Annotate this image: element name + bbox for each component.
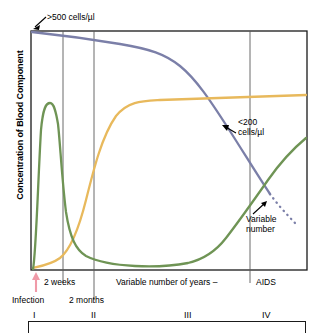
annotation-cd4-low-line2: cells/µl: [238, 127, 264, 137]
axis-label-aids: AIDS: [256, 277, 276, 287]
cd4-high-arrow-icon: [33, 17, 46, 30]
annotation-variable-line2: number: [246, 224, 277, 234]
axis-label-two-months: 2 months: [69, 295, 104, 305]
plot-frame: [31, 31, 307, 270]
infection-arrow-icon: [32, 272, 40, 292]
axis-label-variable-years: Variable number of years –: [116, 277, 217, 287]
axis-label-two-weeks: 2 weeks: [44, 277, 75, 287]
phase-numeral-iii: III: [184, 310, 192, 320]
annotation-variable-line1: Variable: [246, 214, 277, 224]
annotation-cd4-low: <200 cells/µl: [238, 117, 264, 137]
phase-numeral-iv: IV: [262, 310, 271, 320]
annotation-cd4-low-line1: <200: [238, 117, 257, 127]
axis-label-infection: Infection: [12, 295, 44, 305]
phase-numeral-ii: II: [91, 310, 96, 320]
caption-panel: [28, 321, 306, 333]
phase-numeral-i: I: [33, 310, 36, 320]
annotation-cd4-high: >500 cells/µl: [47, 12, 95, 22]
annotation-variable-number: Variable number: [246, 214, 277, 234]
